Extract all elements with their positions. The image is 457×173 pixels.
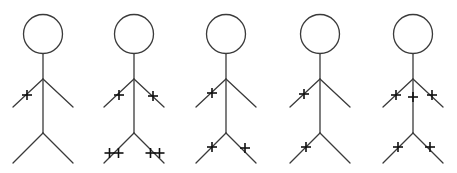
stick-figure: [13, 15, 73, 164]
mark-torso: [408, 92, 418, 102]
stick-figure: [196, 15, 256, 164]
right-leg: [320, 133, 350, 163]
head: [24, 15, 63, 54]
mark-right-arm: [427, 90, 437, 100]
mark-left-arm: [114, 90, 124, 100]
right-leg: [43, 133, 73, 163]
left-leg: [196, 133, 226, 163]
mark-left-leg: [105, 148, 124, 158]
right-arm: [413, 79, 443, 107]
right-arm: [226, 79, 256, 107]
left-arm: [13, 79, 43, 107]
right-arm: [43, 79, 73, 107]
stick-figure: [290, 15, 350, 164]
right-arm: [320, 79, 350, 107]
head: [394, 15, 433, 54]
figures-layer: [13, 15, 443, 164]
left-leg: [290, 133, 320, 163]
left-arm: [290, 79, 320, 107]
mark-right-leg: [146, 148, 165, 158]
mark-left-leg: [393, 142, 403, 152]
stick-figure-diagram: [0, 0, 457, 173]
mark-right-leg: [240, 143, 250, 153]
stick-figure: [383, 15, 443, 164]
right-leg: [413, 133, 443, 163]
head: [207, 15, 246, 54]
stick-figure: [104, 15, 165, 164]
right-arm: [134, 79, 164, 107]
head: [115, 15, 154, 54]
head: [301, 15, 340, 54]
left-arm: [383, 79, 413, 107]
mark-right-leg: [425, 142, 435, 152]
left-leg: [13, 133, 43, 163]
